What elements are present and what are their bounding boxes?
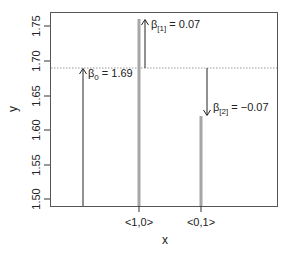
beta0-arrow — [80, 69, 87, 207]
y-tick-label: 1.75 — [30, 15, 42, 36]
x-tick-label: <0,1> — [187, 216, 215, 228]
y-tick-label: 1.60 — [30, 119, 42, 140]
y-tick-label: 1.70 — [30, 50, 42, 71]
y-axis-label: y — [6, 106, 20, 112]
beta2-label: β[2] = −0.07 — [213, 101, 269, 116]
bar-0-1 — [200, 116, 203, 206]
x-axis-label: x — [162, 233, 168, 247]
y-tick-label: 1.55 — [30, 154, 42, 175]
beta2-arrow — [204, 68, 211, 116]
y-tick-label: 1.65 — [30, 85, 42, 106]
beta0-label: β0 = 1.69 — [88, 67, 133, 82]
bar-1-0 — [138, 19, 141, 206]
x-axis: <1,0> <0,1> x — [125, 206, 215, 247]
y-tick-label: 1.50 — [30, 188, 42, 209]
beta1-label: β[1] = 0.07 — [151, 18, 200, 33]
chart: 1.50 1.55 1.60 1.65 1.70 1.75 y <1,0> <0… — [0, 0, 292, 255]
y-axis: 1.50 1.55 1.60 1.65 1.70 1.75 y — [6, 15, 50, 209]
x-tick-label: <1,0> — [125, 216, 153, 228]
beta1-arrow — [142, 20, 149, 69]
